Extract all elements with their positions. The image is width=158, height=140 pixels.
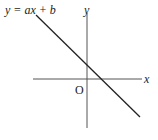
x-axis-label: x bbox=[143, 72, 150, 86]
y-axis-label: y bbox=[83, 3, 90, 17]
coordinate-diagram: y = ax + b y x O bbox=[0, 0, 158, 140]
equation-label: y = ax + b bbox=[4, 3, 56, 17]
origin-label: O bbox=[75, 83, 84, 97]
graph-line bbox=[36, 15, 140, 117]
